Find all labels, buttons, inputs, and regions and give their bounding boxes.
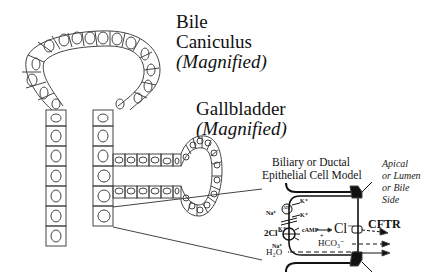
camp-label: cAMP	[302, 227, 318, 233]
cell-model-title-line1: Biliary or Ductal	[272, 156, 350, 168]
side-label-bile: or Bile	[382, 182, 410, 195]
label-caniculus: Caniculus	[176, 32, 252, 52]
canaliculus-inner	[43, 46, 144, 106]
cl-ion: Cl⁻	[334, 222, 354, 237]
cell-top-membrane	[286, 183, 352, 192]
cell-model-title-line2: Epithelial Cell Model	[262, 169, 362, 181]
ion-k-mid: K⁺	[300, 212, 308, 218]
cell-bottom-membrane	[286, 263, 358, 272]
side-label-apical: Apical	[382, 158, 408, 171]
atp-label: ATP	[283, 206, 291, 210]
biliary-diagram: Bile Caniculus (Magnified) Gallbladder (…	[0, 0, 430, 277]
side-label-lumen: or Lumen	[382, 170, 421, 183]
label-canaliculus-magnified: (Magnified)	[176, 52, 267, 72]
ion-na-left: Na⁺	[266, 210, 276, 216]
side-label-side: Side	[382, 194, 399, 207]
label-gallbladder: Gallbladder	[196, 99, 286, 119]
ion-k-top: K⁺	[300, 198, 308, 204]
ion-2cl: 2Cl⁻	[264, 229, 283, 238]
label-bile: Bile	[176, 12, 208, 32]
label-gallbladder-magnified: (Magnified)	[196, 119, 287, 139]
hco3-label: HCO₃⁻	[318, 239, 345, 248]
cftr-label: CFTR	[368, 218, 401, 231]
ion-h2o: H₂O	[266, 248, 282, 257]
